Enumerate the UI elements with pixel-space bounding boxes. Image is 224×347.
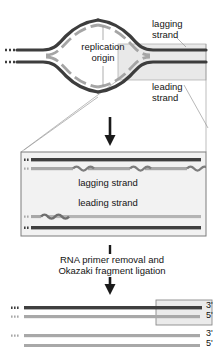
label-three-prime-bottom: 3' xyxy=(206,329,213,338)
lagging-strand-fragments xyxy=(31,167,187,170)
label-step-caption: RNA primer removal and Okazaki fragment … xyxy=(0,254,224,276)
label-lagging-strand-top: lagging strand xyxy=(152,19,183,40)
label-five-prime-bottom: 5' xyxy=(206,339,213,347)
label-replication-origin: replication origin xyxy=(63,42,143,63)
product1-parental-strand xyxy=(24,306,202,309)
label-three-prime-top: 3' xyxy=(206,301,213,310)
label-leading-strand-mid: leading strand xyxy=(53,198,163,209)
product-highlight-box xyxy=(156,300,212,325)
label-leading-strand-top: leading strand xyxy=(152,82,183,103)
replication-diagram: lagging strand leading strand replicatio… xyxy=(0,0,224,347)
magnified-fork-panel xyxy=(21,152,208,236)
mid-template-strand-bottom xyxy=(31,226,201,229)
product2-new-strand xyxy=(24,334,200,337)
product1-new-strand xyxy=(24,315,200,318)
label-five-prime-top: 5' xyxy=(206,311,213,320)
mid-template-strand-top xyxy=(31,158,201,161)
label-lagging-strand-mid: lagging strand xyxy=(53,178,163,189)
magnified-box-border xyxy=(21,152,206,236)
